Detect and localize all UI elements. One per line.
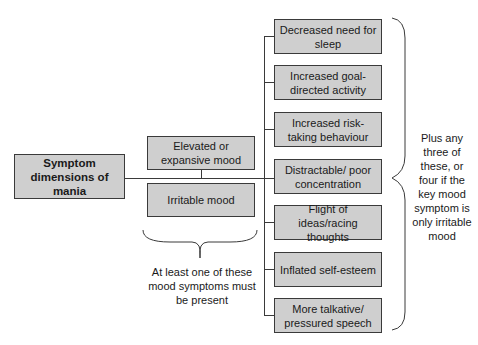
symptom-node-label: More talkative/ pressured speech — [278, 302, 378, 330]
symptom-node-distractable: Distractable/ poor concentration — [274, 159, 382, 194]
symptom-node-label: Flight of ideas/racing thoughts — [278, 202, 378, 244]
mood-node-label: Irritable mood — [167, 193, 234, 207]
symptom-node-label: Decreased need for sleep — [278, 23, 378, 51]
mood-node-elevated: Elevated or expansive mood — [147, 136, 255, 170]
mood-brace — [140, 228, 260, 264]
symptom-node-self-esteem: Inflated self-esteem — [274, 252, 382, 287]
root-connector-line — [122, 178, 264, 179]
branch-line-6 — [264, 269, 274, 270]
branch-line-4 — [264, 178, 274, 179]
symptom-node-label: Increased goal-directed activity — [278, 69, 378, 97]
branch-line-5 — [264, 222, 274, 223]
symptom-node-sleep: Decreased need for sleep — [274, 19, 382, 54]
branch-line-2 — [264, 82, 274, 83]
mood-node-irritable: Irritable mood — [147, 183, 255, 217]
root-node-label: Symptom dimensions of mania — [18, 156, 121, 198]
mood-note: At least one of these mood symptoms must… — [143, 265, 261, 307]
branch-line-7 — [264, 315, 274, 316]
symptom-note: Plus any three of these, or four if the … — [410, 131, 474, 243]
symptom-node-label: Inflated self-esteem — [280, 263, 376, 277]
symptom-node-label: Distractable/ poor concentration — [278, 163, 378, 191]
symptom-node-flight-of-ideas: Flight of ideas/racing thoughts — [274, 205, 382, 240]
symptom-node-talkative: More talkative/ pressured speech — [274, 298, 382, 333]
branch-line-1 — [264, 36, 274, 37]
root-node: Symptom dimensions of mania — [14, 154, 125, 199]
mood-node-label: Elevated or expansive mood — [151, 139, 251, 167]
symptom-node-label: Increased risk-taking behaviour — [278, 116, 378, 144]
symptom-node-goal-activity: Increased goal-directed activity — [274, 65, 382, 100]
symptom-node-risk-taking: Increased risk-taking behaviour — [274, 112, 382, 147]
branch-line-3 — [264, 129, 274, 130]
symptom-spine-line — [264, 36, 265, 316]
